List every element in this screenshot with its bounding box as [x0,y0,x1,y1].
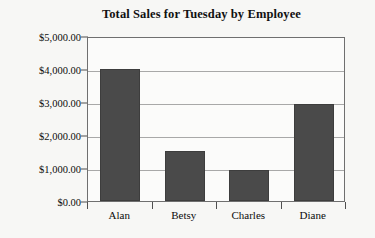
x-axis-tick [281,202,282,209]
x-axis-tick [216,202,217,209]
x-axis-label: Charles [231,209,265,221]
x-axis-label: Diane [300,209,326,221]
bar [229,170,269,201]
y-axis-label: $3,000.00 [0,98,81,109]
bar [294,104,334,201]
plot-area [87,37,345,202]
x-axis-label: Betsy [171,209,196,221]
y-axis-label: $5,000.00 [0,32,81,43]
y-axis-label: $2,000.00 [0,131,81,142]
bar [100,69,140,201]
x-axis-tick [152,202,153,209]
x-axis-label: Alan [109,209,130,221]
chart-title: Total Sales for Tuesday by Employee [0,7,375,22]
y-axis-label: $1,000.00 [0,164,81,175]
bar [165,151,205,201]
x-axis-tick [345,202,346,209]
y-axis-label: $0.00 [0,197,81,208]
y-axis-label: $4,000.00 [0,65,81,76]
x-axis-tick [87,202,88,209]
